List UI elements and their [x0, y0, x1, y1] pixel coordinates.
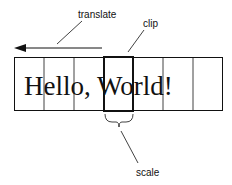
scale-brace: [105, 114, 133, 127]
hello-world-text: Hello, World!: [24, 71, 173, 101]
clip-label: clip: [143, 18, 158, 29]
scale-leader-line: [121, 131, 138, 163]
clip-leader-line: [128, 30, 144, 52]
scale-label: scale: [136, 167, 160, 178]
arrow-left-icon: [14, 44, 26, 52]
diagram-canvas: translate clip Hello, World! scale: [0, 0, 232, 185]
translate-label: translate: [78, 9, 117, 20]
translate-leader-line: [57, 21, 82, 44]
